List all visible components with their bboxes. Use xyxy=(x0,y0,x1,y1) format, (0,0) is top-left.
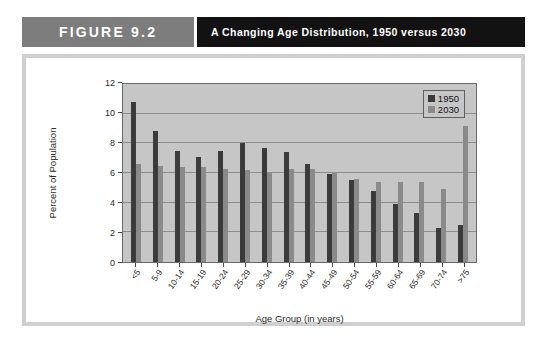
figure-number-tab: FIGURE 9.2 xyxy=(22,17,194,47)
x-label-cell: 20-24 xyxy=(212,263,234,309)
x-tick-label: 5-9 xyxy=(150,268,164,283)
plot-area: 19502030 xyxy=(122,83,477,263)
x-label-cell: 25-29 xyxy=(234,263,256,309)
x-label-cell: 45-49 xyxy=(321,263,343,309)
bar-group xyxy=(212,84,234,262)
y-tick-mark xyxy=(118,232,122,233)
legend-item-1950: 1950 xyxy=(428,94,459,104)
bar-chart: Percent of Population 19502030 024681012… xyxy=(122,83,477,263)
bar-group xyxy=(365,84,387,262)
bar-group xyxy=(300,84,322,262)
x-tick-label: 35-39 xyxy=(276,268,295,291)
figure-number-label: FIGURE 9.2 xyxy=(59,24,157,40)
x-tick-label: 30-34 xyxy=(254,268,273,291)
x-label-cell: >75 xyxy=(453,263,475,309)
bar-group xyxy=(234,84,256,262)
legend-item-2030: 2030 xyxy=(428,105,459,115)
figure-title-bar: A Changing Age Distribution, 1950 versus… xyxy=(197,17,525,47)
bar-2030->75 xyxy=(463,126,468,262)
x-tick-label: >75 xyxy=(456,268,471,285)
x-tick-label: 25-29 xyxy=(232,268,251,291)
bar-2030-50-54 xyxy=(354,179,359,262)
y-tick-label: 10 xyxy=(105,109,115,118)
x-label-cell: 70-74 xyxy=(431,263,453,309)
y-tick-label: 4 xyxy=(110,199,115,208)
y-axis-title: Percent of Population xyxy=(47,98,58,248)
bar-group xyxy=(256,84,278,262)
x-axis-title: Age Group (in years) xyxy=(122,313,477,324)
bar-group xyxy=(125,84,147,262)
legend-swatch-1950 xyxy=(428,95,435,102)
y-tick-mark xyxy=(118,82,122,83)
x-tick-label: 15-19 xyxy=(188,268,207,291)
x-tick-label: 20-24 xyxy=(210,268,229,291)
y-tick-label: 0 xyxy=(110,259,115,268)
y-tick-label: 12 xyxy=(105,79,115,88)
x-tick-label: 55-59 xyxy=(364,268,383,291)
legend-label-1950: 1950 xyxy=(438,94,459,104)
bar-2030-10-14 xyxy=(180,167,185,262)
bar-2030-25-29 xyxy=(245,170,250,262)
x-label-cell: 60-64 xyxy=(387,263,409,309)
x-label-cell: 30-34 xyxy=(256,263,278,309)
figure-frame: Percent of Population 19502030 024681012… xyxy=(22,54,525,326)
x-label-cell: 55-59 xyxy=(365,263,387,309)
x-label-cell: 15-19 xyxy=(190,263,212,309)
bar-2030-45-49 xyxy=(332,173,337,262)
x-tick-label: 50-54 xyxy=(342,268,361,291)
x-tick-label: 45-49 xyxy=(320,268,339,291)
y-tick-label: 6 xyxy=(110,169,115,178)
y-tick-label: 2 xyxy=(110,229,115,238)
x-tick-label: 65-69 xyxy=(408,268,427,291)
y-tick-mark xyxy=(118,202,122,203)
bar-2030-30-34 xyxy=(267,173,272,262)
chart-legend: 19502030 xyxy=(423,90,465,118)
legend-label-2030: 2030 xyxy=(438,105,459,115)
bar-group xyxy=(169,84,191,262)
x-tick-label: 70-74 xyxy=(430,268,449,291)
bar-2030-5-9 xyxy=(158,166,163,262)
figure-header: FIGURE 9.2 A Changing Age Distribution, … xyxy=(22,17,525,47)
bar-group xyxy=(147,84,169,262)
bar-group xyxy=(278,84,300,262)
bar-2030-40-44 xyxy=(310,169,315,262)
x-tick-label: 60-64 xyxy=(386,268,405,291)
y-tick-mark xyxy=(118,112,122,113)
x-label-cell: 35-39 xyxy=(278,263,300,309)
bar-group xyxy=(387,84,409,262)
bar-2030-15-19 xyxy=(201,167,206,262)
x-label-cell: 10-14 xyxy=(168,263,190,309)
x-label-cell: 50-54 xyxy=(343,263,365,309)
bar-2030-65-69 xyxy=(419,182,424,262)
x-tick-label: 40-44 xyxy=(298,268,317,291)
bar-2030-<5 xyxy=(136,164,141,262)
y-tick-mark xyxy=(118,142,122,143)
x-label-cell: 40-44 xyxy=(300,263,322,309)
bar-group xyxy=(343,84,365,262)
y-tick-mark xyxy=(118,172,122,173)
bar-group xyxy=(190,84,212,262)
x-label-cell: <5 xyxy=(124,263,146,309)
bar-2030-60-64 xyxy=(398,182,403,262)
figure-title: A Changing Age Distribution, 1950 versus… xyxy=(211,26,466,38)
x-tick-label: 10-14 xyxy=(166,268,185,291)
bar-2030-70-74 xyxy=(441,189,446,262)
legend-swatch-2030 xyxy=(428,106,435,113)
bar-2030-20-24 xyxy=(223,169,228,262)
x-label-cell: 5-9 xyxy=(146,263,168,309)
bar-group xyxy=(321,84,343,262)
x-axis-labels: <55-910-1415-1920-2425-2930-3435-3940-44… xyxy=(122,263,477,309)
y-tick-label: 8 xyxy=(110,139,115,148)
x-label-cell: 65-69 xyxy=(409,263,431,309)
x-tick-label: <5 xyxy=(129,268,142,281)
bar-2030-35-39 xyxy=(289,169,294,262)
bar-2030-55-59 xyxy=(376,182,381,262)
